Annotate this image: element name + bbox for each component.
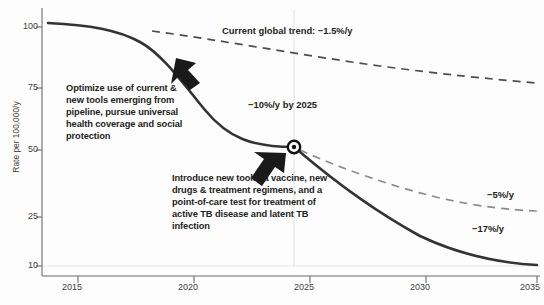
tb-incidence-projection-chart: Rate per 100,000/y 100 75 50 25 10 2015 … [0,0,544,305]
y-tick-label-50: 50 [12,144,38,154]
x-tick-label-2030: 2030 [410,282,430,292]
x-tick-label-2025: 2025 [294,282,314,292]
chart-canvas [0,0,544,305]
callout-optimize-tools: Optimize use of current & new tools emer… [66,83,186,142]
label-seventeen-percent-per-year: −17%/y [472,223,504,234]
y-tick-label-100: 100 [12,21,38,31]
y-tick-label-10: 10 [12,260,38,270]
x-tick-label-2020: 2020 [178,282,198,292]
callout-introduce-new-tools: Introduce new tools: a vaccine, new drug… [172,173,328,232]
x-tick-label-2015: 2015 [62,282,82,292]
marker-2025-target-inner [292,145,296,149]
y-tick-label-75: 75 [12,82,38,92]
label-five-percent-per-year: −5%/y [487,189,514,200]
y-axis-title: Rate per 100,000/y [11,89,21,185]
label-current-global-trend: Current global trend: −1.5%/y [222,25,353,36]
y-tick-label-25: 25 [12,211,38,221]
x-tick-label-2035: 2035 [520,282,540,292]
label-ten-percent-by-2025: −10%/y by 2025 [248,99,317,110]
